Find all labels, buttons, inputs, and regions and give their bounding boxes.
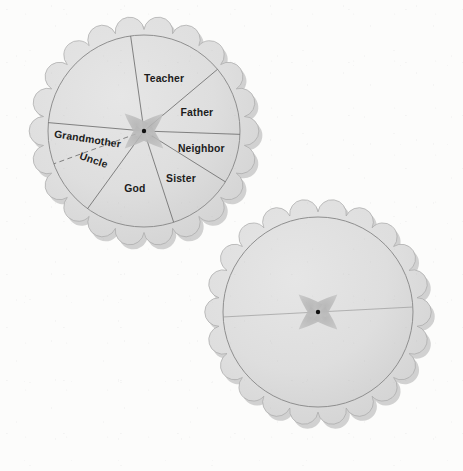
bottom-right-spinner-wheel[interactable]: [205, 200, 435, 429]
wheel-segment-label-god: God: [124, 183, 145, 194]
spinner-hub-dot: [142, 129, 146, 133]
wheel-segment-label-teacher: Teacher: [144, 73, 184, 84]
spinner-wheels-canvas: TeacherFatherNeighborSisterGodUncleGrand…: [0, 0, 463, 471]
spinner-wheels-scene: TeacherFatherNeighborSisterGodUncleGrand…: [0, 0, 463, 471]
spinner-hub-dot: [316, 310, 320, 314]
wheel-segment-label-father: Father: [181, 107, 214, 118]
wheel-segment-label-neighbor: Neighbor: [178, 143, 225, 154]
top-left-spinner-wheel[interactable]: TeacherFatherNeighborSisterGodUncleGrand…: [29, 17, 262, 249]
wheel-segment-label-sister: Sister: [166, 173, 196, 184]
